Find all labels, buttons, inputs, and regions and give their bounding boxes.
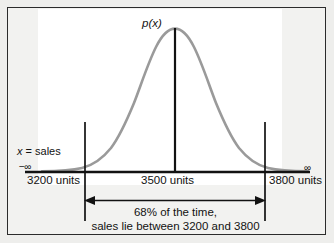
tick-label-3800: 3800 units xyxy=(269,174,322,187)
caption-line-2: sales lie between 3200 and 3800 xyxy=(88,219,263,233)
interval-caption: 68% of the time, sales lie between 3200 … xyxy=(88,205,263,233)
negative-infinity-label: −∞ xyxy=(19,160,31,173)
tick-label-3500: 3500 units xyxy=(141,174,194,187)
x-axis-variable-label: x = sales xyxy=(17,145,61,158)
caption-line-1: 68% of the time, xyxy=(88,205,263,219)
tick-label-3200: 3200 units xyxy=(27,174,80,187)
density-function-label: p(x) xyxy=(142,17,162,30)
positive-infinity-label: ∞ xyxy=(304,161,311,174)
normal-distribution-figure: p(x) x = sales −∞ ∞ 3200 units 3500 unit… xyxy=(0,0,334,243)
